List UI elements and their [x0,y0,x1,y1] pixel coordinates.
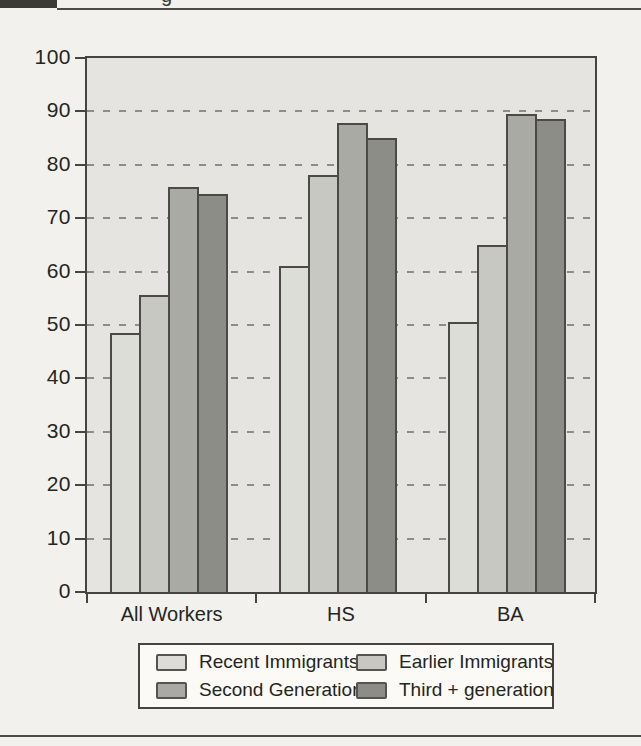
bar-earlier-immigrants-hs [308,175,339,592]
x-tick-2 [425,594,427,603]
y-axis-label-70: 70 [47,205,71,229]
bar-second-generation-ba [506,114,537,592]
y-axis-label-80: 80 [47,152,71,176]
legend-swatch-third-generation [356,682,387,699]
x-axis-label-ba: BA [497,603,524,626]
y-axis-label-90: 90 [47,98,71,122]
header-rule [57,8,641,10]
legend-entry-earlier-immigrants: Earlier Immigrants [356,651,554,673]
y-axis-label-10: 10 [47,526,71,550]
bar-earlier-immigrants-ba [477,245,508,592]
y-tick-10 [75,538,85,540]
legend-label-recent-immigrants: Recent Immigrants [199,651,358,673]
bar-second-generation-hs [337,123,368,592]
y-axis-label-30: 30 [47,419,71,443]
legend-entry-third-generation: Third + generation [356,679,554,701]
bar-recent-immigrants-ba [448,322,479,592]
x-tick-3 [594,594,596,603]
legend-swatch-recent-immigrants [156,654,187,671]
y-tick-70 [75,217,85,219]
y-axis-label-20: 20 [47,472,71,496]
bar-group-all-workers [110,58,228,592]
bar-second-generation-all-workers [168,187,199,592]
legend-label-second-generation: Second Generation [199,679,363,701]
y-axis-label-50: 50 [47,312,71,336]
y-tick-90 [75,110,85,112]
figure-number-box [0,0,57,8]
legend-swatch-second-generation [156,682,187,699]
bar-recent-immigrants-all-workers [110,333,141,592]
bar-group-ba [448,58,566,592]
y-tick-60 [75,271,85,273]
x-tick-1 [255,594,257,603]
x-axis-label-hs: HS [327,603,355,626]
legend-label-earlier-immigrants: Earlier Immigrants [399,651,553,673]
bar-third-generation-all-workers [197,194,228,592]
y-axis-label-40: 40 [47,365,71,389]
y-tick-100 [75,57,85,59]
bar-recent-immigrants-hs [279,266,310,592]
bar-group-hs [279,58,397,592]
legend: Recent ImmigrantsEarlier ImmigrantsSecon… [138,643,554,709]
legend-label-third-generation: Third + generation [399,679,554,701]
page-bottom-rule [0,735,641,737]
y-tick-30 [75,431,85,433]
bar-third-generation-ba [535,119,566,592]
cropped-caption-fragment: g [161,0,181,6]
legend-swatch-earlier-immigrants [356,654,387,671]
x-tick-0 [86,594,88,603]
y-tick-40 [75,377,85,379]
y-axis-label-60: 60 [47,259,71,283]
legend-entry-recent-immigrants: Recent Immigrants [156,651,356,673]
legend-entry-second-generation: Second Generation [156,679,356,701]
y-tick-50 [75,324,85,326]
x-axis-label-all-workers: All Workers [121,603,223,626]
y-tick-0 [75,591,85,593]
bar-earlier-immigrants-all-workers [139,295,170,592]
y-axis-label-100: 100 [34,45,71,69]
caption-fragment-text: g [161,0,172,6]
bar-third-generation-hs [366,138,397,592]
y-tick-80 [75,164,85,166]
y-tick-20 [75,484,85,486]
plot-area: 0102030405060708090100All WorkersHSBA [85,56,597,594]
y-axis-label-0: 0 [59,579,71,603]
